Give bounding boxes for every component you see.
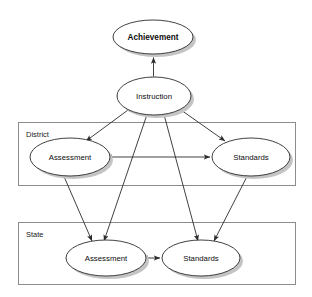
node-instruction[interactable]: Instruction: [117, 77, 191, 115]
state-box: [19, 223, 296, 285]
node-state-assessment[interactable]: Assessment: [66, 240, 146, 276]
node-district-standards[interactable]: Standards: [212, 138, 290, 176]
district-standards-label: Standards: [233, 153, 269, 162]
district-assessment-label: Assessment: [49, 153, 92, 162]
instruction-label: Instruction: [136, 92, 172, 101]
district-box-label: District: [26, 130, 50, 139]
state-assessment-label: Assessment: [85, 254, 128, 263]
node-achievement[interactable]: Achievement: [113, 20, 193, 54]
state-standards-label: Standards: [183, 254, 219, 263]
node-state-standards[interactable]: Standards: [162, 240, 240, 276]
group-state: State: [19, 223, 296, 285]
node-district-assessment[interactable]: Assessment: [30, 138, 110, 176]
achievement-label: Achievement: [128, 33, 179, 42]
diagram-canvas: District State: [0, 0, 312, 297]
diagram-svg: District State: [0, 0, 312, 297]
state-box-label: State: [26, 230, 44, 239]
